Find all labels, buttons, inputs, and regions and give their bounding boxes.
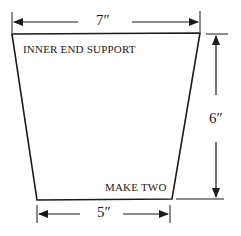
part-name-label: INNER END SUPPORT	[23, 43, 136, 55]
top-width-label: 7″	[96, 12, 110, 29]
bottom-width-label: 5″	[97, 204, 111, 221]
quantity-note: MAKE TWO	[105, 181, 167, 193]
trapezoid-outline	[12, 33, 200, 200]
height-label: 6″	[209, 110, 223, 127]
trapezoid-drawing	[0, 0, 241, 236]
